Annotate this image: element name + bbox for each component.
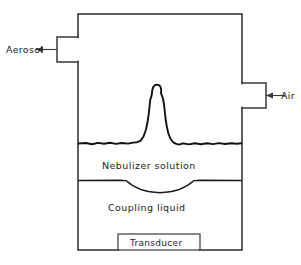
liquid-surface-fountain — [79, 85, 242, 145]
air-port-box — [242, 83, 266, 108]
aerosol-port-box — [57, 37, 78, 62]
nebulizer-diagram: Aerosol Air Nebulizer solution Coupling … — [0, 0, 301, 265]
air-arrow-icon — [266, 92, 273, 98]
air-port-group — [242, 83, 285, 108]
liquid-interface-membrane — [79, 180, 242, 192]
aerosol-label: Aerosol — [6, 44, 43, 55]
transducer-label: Transducer — [129, 238, 182, 248]
air-label: Air — [281, 90, 295, 101]
chamber-outline — [78, 14, 242, 250]
coupling-liquid-label: Coupling liquid — [108, 202, 186, 213]
nebulizer-schematic-svg: Aerosol Air Nebulizer solution Coupling … — [0, 0, 301, 265]
nebulizer-solution-label: Nebulizer solution — [102, 160, 196, 171]
